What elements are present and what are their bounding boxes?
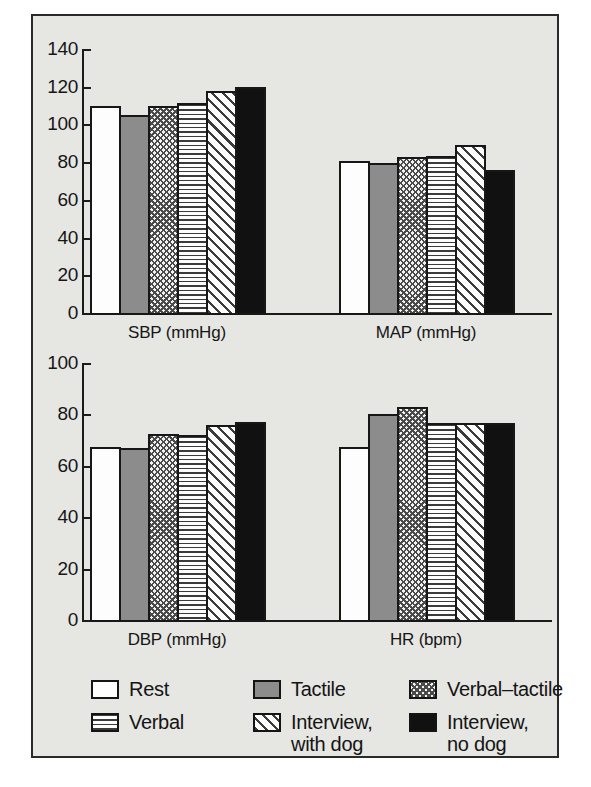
legend-item-label: Interview, with dog [291, 711, 372, 755]
panel-top-sbp-map: 020406080100120140SBP (mmHg)MAP (mmHg) [33, 16, 557, 336]
bar [206, 91, 237, 315]
legend-item-label: Verbal–tactile [447, 678, 563, 700]
bar [426, 423, 457, 622]
legend: RestTactileVerbal–tactileVerbalInterview… [91, 680, 541, 766]
bar [339, 161, 370, 315]
bar [119, 448, 150, 622]
x-axis-title: DBP (mmHg) [50, 630, 304, 650]
y-axis-tick-label: 40 [20, 227, 78, 249]
figure-plate: 020406080100120140SBP (mmHg)MAP (mmHg) 0… [31, 14, 559, 758]
y-axis-tick-label: 20 [20, 264, 78, 286]
y-axis-tick [84, 87, 91, 89]
bar [235, 422, 266, 622]
bar [455, 145, 486, 315]
bar [206, 425, 237, 622]
legend-item-label: Rest [129, 678, 169, 700]
y-axis-tick-label: 20 [20, 558, 78, 580]
y-axis-tick-label: 40 [20, 506, 78, 528]
bar [339, 447, 370, 622]
bar [397, 157, 428, 315]
y-axis-tick-label: 140 [20, 38, 78, 60]
y-axis-tick-label: 80 [20, 151, 78, 173]
legend-item-label: Verbal [129, 711, 184, 733]
bar [484, 423, 515, 622]
legend-item-label: Interview, no dog [447, 711, 528, 755]
panel-bottom-dbp-hr: 020406080100DBP (mmHg)HR (bpm) [33, 336, 557, 666]
legend-swatch-icon [91, 713, 119, 732]
y-axis-tick-label: 60 [20, 189, 78, 211]
y-axis-tick-label: 0 [20, 302, 78, 324]
y-axis-tick-label: 100 [20, 113, 78, 135]
legend-swatch-icon [409, 713, 437, 732]
bar [90, 447, 121, 622]
bar [177, 103, 208, 315]
legend-swatch-icon [253, 680, 281, 699]
legend-item-label: Tactile [291, 678, 346, 700]
bar [119, 115, 150, 315]
bar [397, 407, 428, 622]
bar [90, 106, 121, 315]
x-axis-title: HR (bpm) [299, 630, 553, 650]
y-axis-tick [84, 49, 91, 51]
legend-swatch-icon [91, 680, 119, 699]
y-axis-tick-label: 100 [20, 352, 78, 374]
bar [368, 414, 399, 622]
bar [484, 170, 515, 315]
legend-swatch-icon [409, 680, 437, 699]
bar [368, 163, 399, 315]
bar [235, 87, 266, 315]
bar [426, 156, 457, 315]
y-axis-line [82, 363, 84, 622]
y-axis-tick-label: 120 [20, 76, 78, 98]
bar [455, 423, 486, 622]
y-axis-tick [84, 414, 91, 416]
legend-swatch-icon [253, 713, 281, 732]
y-axis-tick-label: 80 [20, 403, 78, 425]
y-axis-tick-label: 0 [20, 609, 78, 631]
bar [148, 434, 179, 622]
bar [177, 435, 208, 622]
y-axis-tick [84, 363, 91, 365]
bar [148, 106, 179, 315]
y-axis-tick-label: 60 [20, 455, 78, 477]
figure-root: 020406080100120140SBP (mmHg)MAP (mmHg) 0… [0, 0, 591, 787]
